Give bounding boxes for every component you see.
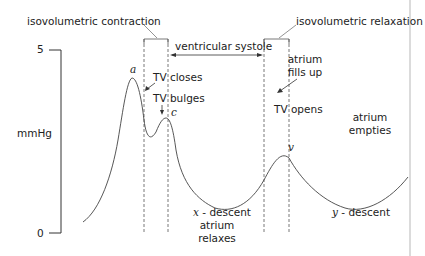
- y-tick-min: 0: [37, 227, 44, 239]
- jvp-diagram: 5 0 mmHg isovolumetric contraction isovo…: [0, 0, 425, 256]
- tv-bulges-label: TV bulges: [152, 92, 205, 104]
- isovolumetric-relaxation-leader: [279, 25, 296, 38]
- ventricular-systole-label: ventricular systole: [175, 40, 272, 52]
- wave-v-label: v: [288, 141, 294, 153]
- atrium-fills-up-arrow: [280, 79, 297, 91]
- isovolumetric-relaxation-label: isovolumetric relaxation: [296, 15, 423, 27]
- phase-lines: [144, 39, 289, 232]
- wave-c-label: c: [171, 106, 177, 118]
- x-descent-suffix: - descent: [199, 206, 251, 218]
- tv-closes-label: TV closes: [152, 71, 202, 83]
- tv-closes-arrowhead: [145, 86, 150, 91]
- atrium-fills-up-label-line1: atrium: [288, 53, 323, 65]
- atrium-fills-up-arrowhead: [277, 88, 283, 93]
- atrium-empties-label-line1: atrium: [353, 111, 388, 123]
- atrium-relaxes-label-line1: atrium: [200, 219, 235, 231]
- isovolumetric-contraction-label: isovolumetric contraction: [27, 15, 161, 27]
- y-tick-max: 5: [37, 43, 44, 55]
- atrium-fills-up-label-line2: fills up: [288, 66, 323, 78]
- tv-opens-label: TV opens: [273, 103, 323, 115]
- y-axis-unit-label: mmHg: [17, 127, 52, 139]
- atrium-empties-label-line2: empties: [349, 124, 391, 136]
- y-descent-suffix: - descent: [338, 206, 390, 218]
- tv-bulges-arrowhead: [160, 110, 164, 115]
- x-descent-label: x - descent: [193, 206, 251, 218]
- y-axis: 5 0 mmHg: [17, 43, 61, 239]
- ventricular-systole-arrow: ventricular systole: [170, 40, 272, 57]
- atrium-relaxes-label-line2: relaxes: [198, 232, 236, 244]
- jvp-waveform: [83, 78, 408, 222]
- y-descent-label: y - descent: [331, 206, 390, 218]
- wave-a-label: a: [130, 63, 136, 75]
